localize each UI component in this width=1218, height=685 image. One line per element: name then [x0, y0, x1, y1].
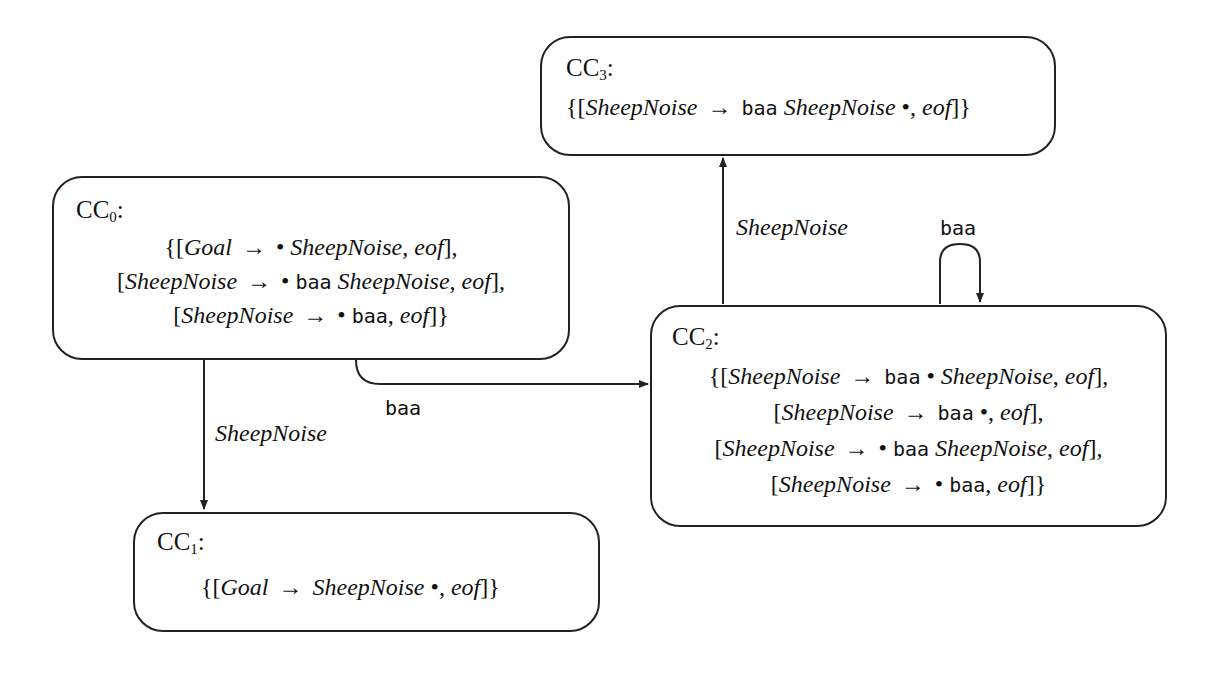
node-cc3-title: CC3: [566, 54, 614, 84]
node-cc2-title: CC2: [672, 323, 720, 353]
edge-label-cc0-cc1: SheepNoise [215, 420, 327, 447]
node-cc3: CC3: {[SheepNoise→baa SheepNoise •, eof]… [540, 36, 1056, 156]
cc3-item-0: {[SheepNoise→baa SheepNoise •, eof]} [566, 94, 1054, 121]
cc2-item-2: [SheepNoise→• baa SheepNoise, eof], [652, 435, 1165, 462]
edge-label-cc2-cc3: SheepNoise [736, 214, 848, 241]
node-cc1-title: CC1: [157, 528, 205, 558]
edge-label-cc0-cc2: baa [385, 396, 421, 420]
node-cc0: CC0: {[Goal→• SheepNoise, eof], [SheepNo… [52, 176, 570, 360]
cc2-item-0: {[SheepNoise→baa • SheepNoise, eof], [652, 363, 1165, 390]
cc0-item-1: [SheepNoise→• baa SheepNoise, eof], [54, 268, 568, 295]
cc2-item-3: [SheepNoise→• baa, eof]} [652, 471, 1165, 498]
cc2-item-1: [SheepNoise→baa •, eof], [652, 399, 1165, 426]
cc0-item-2: [SheepNoise→• baa, eof]} [54, 302, 568, 329]
edge-cc2-self-loop [940, 244, 980, 304]
edge-cc0-cc2 [356, 360, 648, 384]
node-cc0-title: CC0: [76, 196, 124, 226]
cc1-item-0: {[Goal→SheepNoise •, eof]} [201, 574, 598, 601]
node-cc2: CC2: {[SheepNoise→baa • SheepNoise, eof]… [650, 305, 1167, 527]
edge-label-cc2-self: baa [940, 216, 976, 240]
cc0-item-0: {[Goal→• SheepNoise, eof], [54, 234, 568, 261]
node-cc1: CC1: {[Goal→SheepNoise •, eof]} [133, 512, 600, 632]
